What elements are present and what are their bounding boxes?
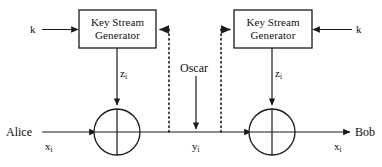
ciphertext-sub: i bbox=[198, 145, 200, 154]
ksg-alice-line2: Generator bbox=[79, 29, 156, 42]
plaintext-label-alice: xi bbox=[45, 141, 53, 152]
eavesdrop-tap-line-left bbox=[160, 30, 169, 133]
stream-cipher-diagram: Key Stream Generator Key Stream Generato… bbox=[0, 0, 382, 167]
keystream-label-left: zi bbox=[120, 68, 127, 79]
eavesdrop-tap-line-right bbox=[221, 30, 230, 133]
keystream-label-right: zi bbox=[275, 68, 282, 79]
key-stream-generator-bob-label: Key Stream Generator bbox=[234, 16, 312, 43]
plaintext-left-base: x bbox=[45, 140, 51, 152]
plaintext-label-bob: xi bbox=[334, 141, 342, 152]
plaintext-left-sub: i bbox=[51, 145, 53, 154]
oscar-label: Oscar bbox=[180, 62, 208, 74]
diagram-canvas bbox=[0, 0, 382, 167]
ksg-alice-line1: Key Stream bbox=[79, 16, 156, 29]
ciphertext-label: yi bbox=[192, 141, 200, 152]
xor-bob bbox=[249, 109, 295, 155]
plaintext-right-base: x bbox=[334, 140, 340, 152]
plaintext-right-sub: i bbox=[340, 145, 342, 154]
xor-alice bbox=[94, 109, 140, 155]
ksg-bob-line2: Generator bbox=[234, 29, 312, 42]
ksg-bob-line1: Key Stream bbox=[234, 16, 312, 29]
key-label-left: k bbox=[30, 24, 36, 35]
keystream-right-sub: i bbox=[280, 72, 282, 81]
key-stream-generator-alice-label: Key Stream Generator bbox=[79, 16, 156, 43]
key-label-right: k bbox=[356, 24, 362, 35]
alice-label: Alice bbox=[6, 126, 32, 138]
keystream-left-sub: i bbox=[125, 72, 127, 81]
bob-label: Bob bbox=[355, 126, 375, 138]
ciphertext-base: y bbox=[192, 140, 198, 152]
